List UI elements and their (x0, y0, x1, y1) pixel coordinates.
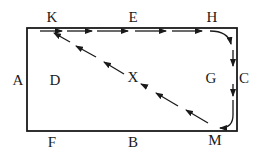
label-x: X (128, 70, 139, 85)
label-k: K (47, 10, 58, 25)
label-h: H (207, 10, 218, 25)
label-g: G (206, 71, 217, 86)
diagram-canvas: K E H A D X G C F B M (0, 0, 261, 152)
label-f: F (48, 135, 56, 150)
label-a: A (13, 73, 24, 88)
label-m: M (208, 133, 221, 148)
label-e: E (128, 10, 137, 25)
label-b: B (128, 135, 138, 150)
label-c: C (239, 71, 249, 86)
label-d: D (50, 73, 61, 88)
